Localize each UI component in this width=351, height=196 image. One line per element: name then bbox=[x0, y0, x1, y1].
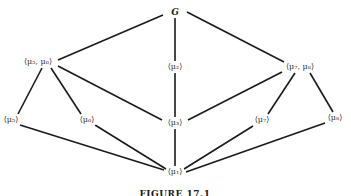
edge-G-m78 bbox=[187, 12, 284, 62]
edge-m56-m5 bbox=[18, 68, 42, 114]
node-mu5: ⟨μ₅⟩ bbox=[3, 115, 20, 125]
edge-m78-m8 bbox=[310, 73, 333, 112]
node-mu7-mu8: ⟨μ₇, μ₈⟩ bbox=[285, 62, 315, 72]
edge-m78-m7 bbox=[268, 73, 295, 114]
node-mu2: ⟨μ₂⟩ bbox=[167, 62, 184, 72]
node-mu6: ⟨μ₆⟩ bbox=[79, 115, 96, 125]
node-G: G bbox=[170, 7, 180, 17]
node-mu3: ⟨μ₃⟩ bbox=[167, 118, 184, 128]
node-mu7: ⟨μ₇⟩ bbox=[254, 115, 271, 125]
node-mu8: ⟨μ₈⟩ bbox=[327, 113, 344, 123]
edge-m5-m1 bbox=[20, 125, 164, 170]
edge-m7-m1 bbox=[184, 126, 253, 169]
node-mu5-mu6: ⟨μ₅, μ₆⟩ bbox=[23, 57, 53, 67]
edge-G-m56 bbox=[58, 15, 163, 60]
edge-m56-m3 bbox=[58, 66, 162, 120]
figure-caption: FIGURE 17.1 bbox=[139, 189, 210, 196]
node-mu1: ⟨μ₁⟩ bbox=[167, 167, 184, 177]
edge-m8-m1 bbox=[186, 123, 325, 172]
edge-m6-m1 bbox=[95, 125, 166, 169]
